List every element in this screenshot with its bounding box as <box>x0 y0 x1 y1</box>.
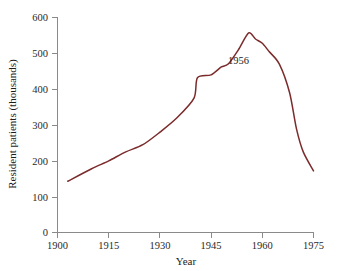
x-axis-title: Year <box>176 255 197 267</box>
line-chart-figure: 600 500 400 300 200 100 0 Resident patie… <box>0 0 339 271</box>
x-tick-label-1915: 1915 <box>98 240 119 251</box>
y-tick-marks <box>52 18 58 233</box>
y-axis-title: Resident patients (thousands) <box>6 59 19 189</box>
x-axis: 1900 1915 1930 1945 1960 1975 Year <box>47 233 324 268</box>
y-tick-label-600: 600 <box>32 12 48 23</box>
chart-canvas: 600 500 400 300 200 100 0 Resident patie… <box>0 0 339 271</box>
x-tick-marks <box>58 233 314 239</box>
y-tick-label-300: 300 <box>32 120 48 131</box>
data-series-line <box>68 33 314 182</box>
y-tick-label-500: 500 <box>32 48 48 59</box>
x-tick-labels: 1900 1915 1930 1945 1960 1975 <box>47 240 324 251</box>
y-tick-labels: 600 500 400 300 200 100 0 <box>32 12 48 238</box>
x-tick-label-1900: 1900 <box>47 240 68 251</box>
x-tick-label-1975: 1975 <box>303 240 324 251</box>
y-axis: 600 500 400 300 200 100 0 Resident patie… <box>6 12 58 238</box>
y-tick-label-200: 200 <box>32 156 48 167</box>
x-tick-label-1930: 1930 <box>149 240 170 251</box>
x-tick-label-1945: 1945 <box>201 240 222 251</box>
annotation-label-1956: 1956 <box>228 55 249 66</box>
x-tick-label-1960: 1960 <box>252 240 273 251</box>
y-tick-label-400: 400 <box>32 84 48 95</box>
y-tick-label-0: 0 <box>43 227 48 238</box>
y-tick-label-100: 100 <box>32 192 48 203</box>
